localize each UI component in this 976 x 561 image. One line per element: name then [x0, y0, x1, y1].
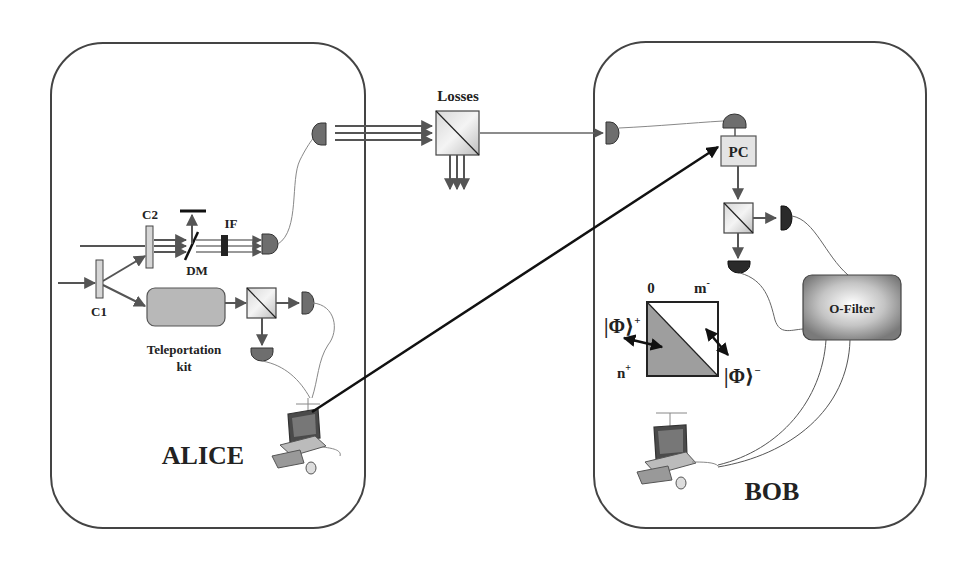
wire-bob-right-to-ofilter — [792, 216, 848, 275]
alice-computer-icon — [272, 398, 340, 474]
detector-bob-receive — [606, 122, 619, 144]
label-c1: C1 — [91, 304, 107, 319]
detector-bob-pc-input — [723, 114, 746, 128]
phi-minus-label: |Φ⟩− — [724, 364, 760, 388]
phi-plus-label: |Φ⟩+ — [604, 314, 640, 338]
detector-alice-right — [302, 292, 314, 314]
label-if: IF — [225, 216, 238, 231]
fiber-bob-to-pc — [619, 121, 723, 128]
bob-computer-icon — [637, 413, 718, 489]
losses-label: Losses — [437, 88, 479, 104]
pc-label: PC — [729, 144, 749, 160]
detector-alice-down — [251, 348, 273, 361]
detector-alice-launch — [312, 123, 326, 145]
detector-bob-down — [728, 261, 750, 273]
wire-alice-right-det — [312, 303, 334, 398]
crystal-c2 — [146, 226, 153, 268]
square-label-n: n+ — [617, 362, 631, 381]
alice-label: ALICE — [162, 441, 244, 470]
bob-label: BOB — [745, 477, 800, 506]
square-label-m: m- — [694, 277, 710, 296]
label-teleportation: Teleportation — [147, 342, 222, 357]
detector-alice-source — [262, 234, 278, 254]
interference-filter — [221, 235, 228, 256]
label-kit: kit — [176, 359, 192, 374]
state-square — [647, 302, 718, 376]
diagram-canvas: C1 C2 DM IF Teleportation kit ALICE — [0, 0, 976, 561]
wire-ofilter-to-bob-pc-2 — [718, 340, 850, 467]
teleportation-kit-box — [147, 288, 225, 326]
label-dm: DM — [186, 263, 208, 278]
beam-c1-to-c2 — [103, 256, 145, 281]
beam-c1-to-kit — [103, 285, 145, 306]
wire-bob-down-to-ofilter — [740, 273, 803, 331]
detector-bob-right — [781, 206, 792, 230]
wire-alice-down-det — [262, 361, 310, 398]
wire-ofilter-to-bob-pc-1 — [718, 340, 826, 465]
label-c2: C2 — [142, 207, 158, 222]
fiber-alice-to-launch — [278, 132, 320, 244]
square-label-zero: 0 — [647, 280, 655, 296]
o-filter-label: O-Filter — [829, 301, 875, 316]
crystal-c1 — [96, 260, 103, 298]
